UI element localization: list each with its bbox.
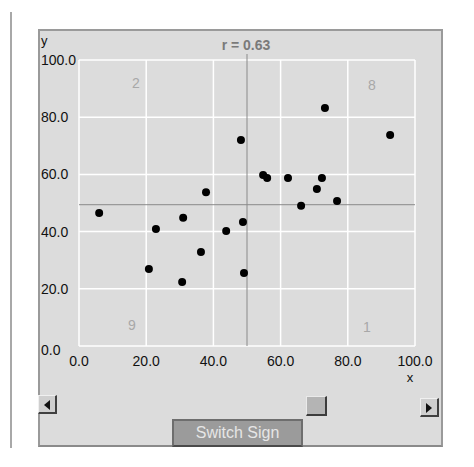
data-point	[263, 174, 271, 182]
data-point	[321, 104, 329, 112]
data-point	[297, 202, 305, 210]
quadrant-count-bottom-left: 9	[128, 317, 136, 333]
mean-lines	[79, 54, 415, 346]
svg-text:0.0: 0.0	[41, 342, 61, 358]
quadrant-count-bottom-right: 1	[363, 319, 371, 335]
data-point	[237, 136, 245, 144]
svg-text:60.0: 60.0	[41, 166, 68, 182]
data-point	[313, 185, 321, 193]
svg-text:20.0: 20.0	[41, 281, 68, 297]
data-point	[202, 188, 210, 196]
svg-text:40.0: 40.0	[41, 224, 68, 240]
switch-sign-button[interactable]: Switch Sign	[172, 419, 303, 447]
slider-track[interactable]	[57, 394, 420, 418]
y-axis-label: y	[41, 33, 48, 48]
slider-left-button[interactable]	[38, 395, 57, 414]
svg-text:0.0: 0.0	[69, 353, 89, 369]
data-point	[240, 269, 248, 277]
arrow-left-icon	[43, 400, 51, 410]
data-point	[179, 214, 187, 222]
data-point	[284, 174, 292, 182]
y-tick-labels: 0.020.040.060.080.0100.0	[41, 52, 76, 358]
data-point	[318, 174, 326, 182]
svg-text:40.0: 40.0	[200, 353, 227, 369]
data-point	[95, 209, 103, 217]
data-point	[178, 278, 186, 286]
chart-title: r = 0.63	[222, 37, 271, 53]
slider-thumb[interactable]	[306, 396, 327, 416]
svg-text:100.0: 100.0	[397, 353, 432, 369]
quadrant-count-top-left: 2	[132, 75, 140, 91]
data-point	[333, 197, 341, 205]
data-point	[239, 218, 247, 226]
data-point	[145, 265, 153, 273]
svg-text:60.0: 60.0	[267, 353, 294, 369]
data-point	[197, 248, 205, 256]
data-point	[152, 225, 160, 233]
quadrant-count-top-right: 8	[368, 77, 376, 93]
svg-text:100.0: 100.0	[41, 52, 76, 68]
arrow-right-icon	[425, 403, 433, 413]
svg-text:20.0: 20.0	[133, 353, 160, 369]
data-point	[386, 131, 394, 139]
svg-text:80.0: 80.0	[41, 109, 68, 125]
x-axis-label: x	[407, 370, 414, 385]
slider-right-button[interactable]	[420, 398, 439, 417]
svg-text:80.0: 80.0	[334, 353, 361, 369]
data-points	[95, 104, 394, 286]
data-point	[222, 227, 230, 235]
x-tick-labels: 0.020.040.060.080.0100.0	[69, 353, 432, 369]
